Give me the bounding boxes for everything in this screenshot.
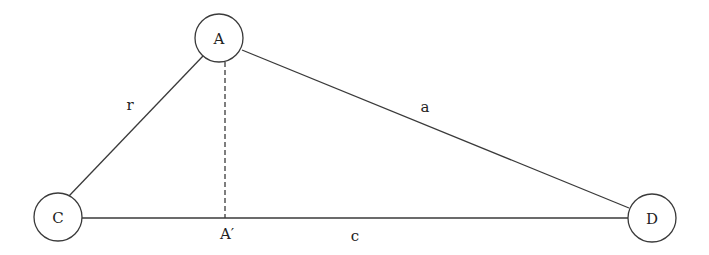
edge-a-to-d (242, 50, 629, 208)
edge-label-r: r (126, 96, 134, 114)
node-a-label: A (213, 30, 225, 48)
edge-label-c: c (351, 227, 359, 245)
node-d-label: D (646, 210, 658, 228)
edge-label-a: a (421, 98, 430, 116)
point-label-a-prime: A′ (219, 225, 235, 243)
edge-c-to-a (69, 56, 203, 196)
node-a: A (195, 14, 243, 62)
node-c-label: C (52, 209, 63, 227)
node-c: C (34, 193, 82, 241)
node-d: D (628, 194, 676, 242)
triangle-diagram: A C D r a c A′ (0, 0, 709, 255)
